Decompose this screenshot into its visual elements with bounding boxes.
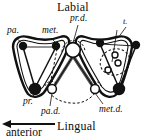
- orientation-label-labial: Labial: [57, 1, 89, 13]
- cusp-marker-prd: [66, 43, 81, 58]
- cusp-label-pa: pa.: [7, 26, 19, 36]
- cusp-marker-pr: [29, 83, 41, 95]
- cusp-marker-pa: [19, 42, 27, 50]
- orientation-label-anterior: anterior: [6, 127, 42, 139]
- cusp-marker-pa-right: [96, 39, 104, 47]
- cusp-marker-metd: [91, 85, 100, 94]
- orientation-label-lingual: Lingual: [57, 120, 96, 132]
- cusp-marker-met-right: [132, 41, 140, 49]
- cusp-label-met-d: met.d.: [99, 105, 123, 115]
- cusp-marker-pr-right: [113, 83, 125, 95]
- lingual-basin-dashed: [49, 92, 96, 103]
- cusp-marker-met: [52, 42, 60, 50]
- cusp-label-met: met.: [42, 26, 59, 36]
- molar-cusp-figure: Labial Lingual anterior pa. met. pr.d. t…: [0, 0, 145, 140]
- cusp-label-pr: pr.: [23, 97, 33, 107]
- cusp-label-t: t.: [123, 17, 128, 26]
- leader-pad: [50, 93, 52, 106]
- cusp-label-pr-d: pr.d.: [70, 14, 87, 24]
- cusp-label-pa-d: pa.d.: [41, 107, 61, 117]
